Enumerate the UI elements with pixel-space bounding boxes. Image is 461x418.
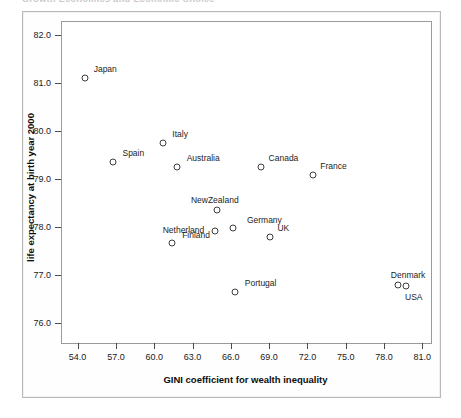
data-point [395,282,402,289]
y-tick-mark [55,179,61,180]
data-point [309,172,316,179]
data-point-label: Japan [94,64,117,74]
x-tick-label: 69.0 [249,352,289,362]
data-point [160,139,167,146]
data-point-label: Portugal [245,278,277,288]
data-point [230,224,237,231]
data-point-label: UK [277,223,289,233]
data-point-label: NewZealand [191,195,239,205]
y-tick-mark [55,83,61,84]
data-point [231,289,238,296]
data-point [82,74,89,81]
y-tick-mark [55,35,61,36]
x-tick-mark [422,343,423,349]
x-tick-label: 57.0 [96,352,136,362]
data-point-label: Canada [269,153,299,163]
y-tick-mark [55,227,61,228]
x-tick-label: 72.0 [287,352,327,362]
x-tick-label: 81.0 [402,352,442,362]
y-tick-label: 76.0 [17,318,51,328]
y-tick-label: 80.0 [17,126,51,136]
y-tick-label: 77.0 [17,270,51,280]
data-point [267,233,274,240]
y-axis-title: life expectancy at birth year 2000 [25,88,36,288]
x-tick-label: 75.0 [326,352,366,362]
data-point [213,206,220,213]
y-tick-label: 78.0 [17,222,51,232]
x-tick-mark [116,343,117,349]
y-tick-label: 81.0 [17,78,51,88]
x-tick-label: 63.0 [173,352,213,362]
y-tick-label: 79.0 [17,174,51,184]
x-tick-label: 54.0 [58,352,98,362]
data-point-label: Denmark [391,270,425,280]
x-axis-title: GINI coefficient for wealth inequality [61,374,430,385]
data-point-label: Italy [172,129,188,139]
data-point [212,227,219,234]
data-point-label: Spain [122,148,144,158]
x-tick-mark [154,343,155,349]
data-point [402,283,409,290]
x-tick-mark [307,343,308,349]
x-tick-mark [269,343,270,349]
x-tick-label: 66.0 [211,352,251,362]
data-point-label: Australia [187,153,220,163]
x-tick-mark [346,343,347,349]
y-tick-label: 82.0 [17,30,51,40]
x-tick-mark [384,343,385,349]
data-point [174,163,181,170]
data-point [110,158,117,165]
data-point [258,163,265,170]
y-tick-mark [55,131,61,132]
x-tick-mark [78,343,79,349]
y-tick-mark [55,323,61,324]
x-tick-mark [193,343,194,349]
scatter-chart: life expectancy at birth year 2000 GINI … [0,0,461,418]
x-tick-mark [231,343,232,349]
data-point-label: USA [405,292,422,302]
data-point [169,240,176,247]
y-tick-mark [55,275,61,276]
x-tick-label: 78.0 [364,352,404,362]
data-point-label: France [320,161,346,171]
x-tick-label: 60.0 [134,352,174,362]
data-point-label: Netherland [163,225,205,235]
